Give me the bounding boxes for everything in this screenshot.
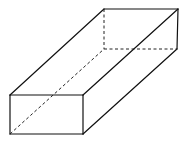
back-right-edge — [177, 9, 178, 49]
top-right-depth-edge — [83, 9, 178, 95]
top-left-depth-edge — [10, 9, 104, 95]
bottom-left-depth-hidden-edge — [10, 49, 104, 134]
cuboid-diagram — [0, 0, 189, 143]
bottom-right-depth-edge — [83, 49, 177, 134]
visible-edges — [10, 9, 178, 134]
